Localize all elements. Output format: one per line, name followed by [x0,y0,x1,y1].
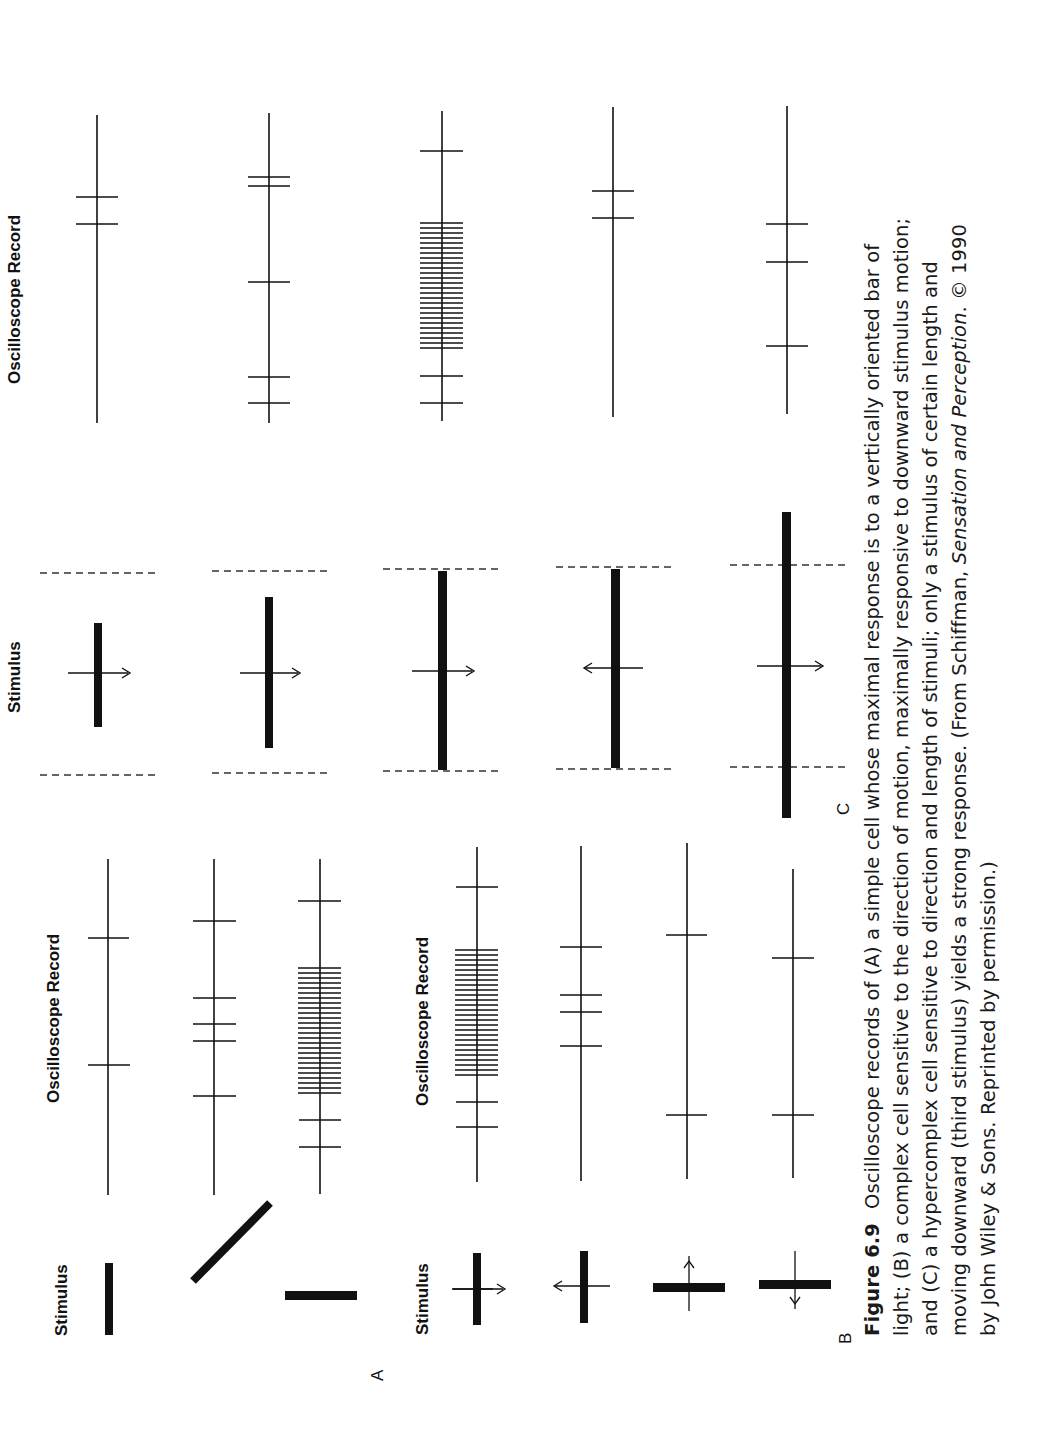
figure-number: Figure 6.9 [861,1223,884,1336]
figure-caption: Figure 6.9Oscilloscope records of (A) a … [858,216,1003,1336]
textbook-page: Stimulus Oscilloscope Record A [0,0,1059,1431]
trace-c1 [76,115,118,423]
trace-c5 [766,106,808,414]
trace-c3 [420,111,463,421]
stimulus-long-bar [782,512,791,818]
trace-c2 [248,113,290,423]
trace-c4 [592,107,634,417]
caption-source-title: Sensation and Perception [948,312,971,564]
figure-canvas-rotated: Stimulus Oscilloscope Record A [0,0,1059,1431]
stimulus-short-bar [94,623,102,727]
